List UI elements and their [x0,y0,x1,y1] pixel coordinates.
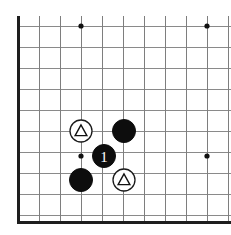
star-point-top-left [78,23,83,28]
white-stone-triangle-lower [113,169,135,191]
star-point-mid-left [78,153,83,158]
star-point-top-right [204,23,209,28]
black-stone-move-1-label: 1 [100,149,108,165]
star-point-mid-right [204,153,209,158]
black-stone-upper-right [113,120,136,143]
go-board-canvas: 1 [0,0,231,235]
black-stone-lower-left [70,169,93,192]
black-stone-move-1: 1 [93,145,116,168]
go-board-diagram: 1 [0,0,231,235]
white-stone-triangle-upper-body [70,120,92,142]
black-stone-lower-left-body [70,169,93,192]
black-stone-upper-right-body [113,120,136,143]
white-stone-triangle-lower-body [113,169,135,191]
white-stone-triangle-upper [70,120,92,142]
